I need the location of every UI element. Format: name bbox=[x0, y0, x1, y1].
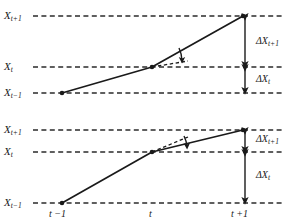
upper-delta-label-x-t-base: ΔX bbox=[256, 73, 268, 84]
axis-tick-label-t-plus-1: t +1 bbox=[231, 209, 248, 219]
upper-y-label-x-t-plus-1-sub: t+1 bbox=[11, 14, 22, 23]
upper-y-label-x-t-minus-1: Xt−1 bbox=[4, 87, 22, 100]
lower-y-label-x-t-base: X bbox=[4, 145, 11, 157]
upper-delta-label-x-t-plus-1: ΔXt+1 bbox=[256, 36, 279, 48]
upper-y-label-x-t-sub: t bbox=[11, 65, 13, 74]
upper-delta-label-x-t-plus-1-sub: t+1 bbox=[268, 39, 279, 48]
lower-y-label-x-t: Xt bbox=[4, 146, 13, 159]
lower-y-label-x-t-plus-1-base: X bbox=[4, 123, 11, 135]
lower-point-t-minus-1 bbox=[60, 201, 65, 206]
upper-series-line bbox=[62, 16, 243, 93]
lower-delta-label-x-t-plus-1-base: ΔX bbox=[256, 133, 268, 144]
lower-y-label-x-t-plus-1: Xt+1 bbox=[4, 124, 22, 137]
lower-series-line bbox=[62, 130, 243, 203]
diagram-svg bbox=[0, 0, 297, 224]
lower-panel bbox=[33, 128, 283, 206]
upper-delta-label-x-t-sub: t bbox=[268, 77, 270, 86]
lower-delta-label-x-t-sub: t bbox=[268, 173, 270, 182]
upper-y-label-x-t-minus-1-sub: t−1 bbox=[11, 91, 22, 100]
lower-delta-label-x-t: ΔXt bbox=[256, 170, 270, 182]
figure-canvas: Xt+1 Xt Xt−1 ΔXt+1 ΔXt Xt+1 Xt Xt−1 ΔXt+… bbox=[0, 0, 297, 224]
upper-panel bbox=[33, 14, 283, 96]
lower-y-label-x-t-sub: t bbox=[11, 150, 13, 159]
lower-delta-label-x-t-plus-1-sub: t+1 bbox=[268, 137, 279, 146]
upper-y-label-x-t-plus-1: Xt+1 bbox=[4, 10, 22, 23]
lower-y-label-x-t-minus-1-sub: t−1 bbox=[11, 201, 22, 210]
upper-delta-label-x-t-plus-1-base: ΔX bbox=[256, 35, 268, 46]
upper-y-label-x-t-base: X bbox=[4, 60, 11, 72]
lower-y-label-x-t-plus-1-sub: t+1 bbox=[11, 128, 22, 137]
axis-tick-label-t: t bbox=[149, 209, 152, 219]
upper-y-label-x-t-plus-1-base: X bbox=[4, 9, 11, 21]
upper-y-label-x-t-minus-1-base: X bbox=[4, 86, 11, 98]
lower-y-label-x-t-minus-1-base: X bbox=[4, 196, 11, 208]
axis-tick-label-t-minus-1: t −1 bbox=[49, 209, 66, 219]
upper-delta-label-x-t: ΔXt bbox=[256, 74, 270, 86]
lower-delta-label-x-t-plus-1: ΔXt+1 bbox=[256, 134, 279, 146]
lower-delta-label-x-t-base: ΔX bbox=[256, 169, 268, 180]
lower-y-label-x-t-minus-1: Xt−1 bbox=[4, 197, 22, 210]
upper-point-t-minus-1 bbox=[60, 91, 65, 96]
upper-y-label-x-t: Xt bbox=[4, 61, 13, 74]
